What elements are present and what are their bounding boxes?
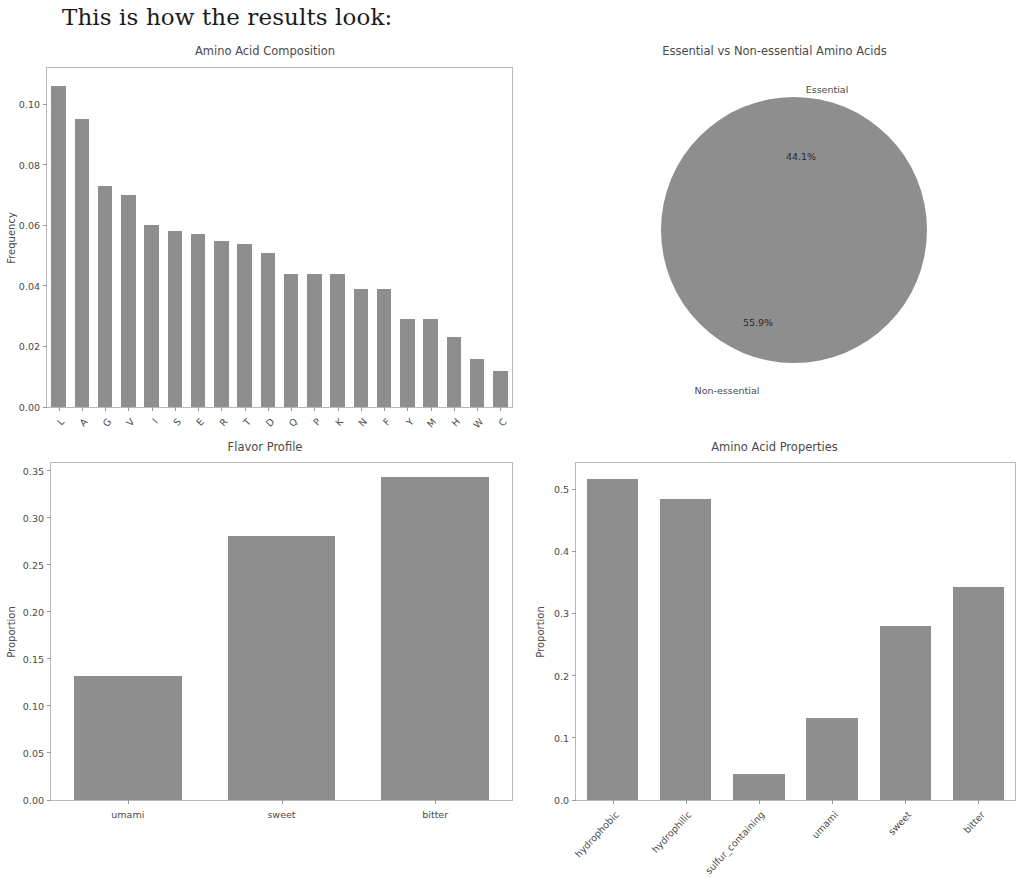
x-tick-label: G — [100, 416, 113, 429]
page-heading: This is how the results look: — [62, 4, 392, 30]
y-tick-label: 0.10 — [23, 700, 51, 711]
y-axis-label-amino-acid-properties: Proportion — [535, 606, 546, 658]
bar-item — [205, 463, 359, 800]
bar — [330, 274, 344, 407]
x-tick-label: hydrophobic — [572, 809, 620, 860]
y-tick-label: 0.5 — [554, 484, 576, 495]
bar-item — [280, 68, 303, 407]
x-tick-label: T — [241, 416, 253, 428]
y-tick-label: 0.04 — [19, 280, 47, 291]
pie-slice-label-essential: Essential — [806, 84, 849, 95]
bar-item — [303, 68, 326, 407]
bar-item — [489, 68, 512, 407]
x-tick-label: S — [171, 416, 183, 428]
bar-item — [869, 463, 942, 800]
y-tick-label: 0.3 — [554, 608, 576, 619]
chart-panel-essential-vs-non-essential: Essential vs Non-essential Amino Acids 4… — [530, 44, 1019, 444]
x-tick-label: F — [380, 416, 392, 428]
x-tick-label: bitter — [422, 809, 448, 820]
plot-area-flavor-profile: Proportion umamisweetbitter 0.000.050.10… — [50, 462, 513, 801]
pie-slice-percent-non-essential: 55.9% — [743, 317, 773, 328]
chart-panel-flavor-profile: Flavor Profile Proportion umamisweetbitt… — [0, 440, 530, 878]
bar — [447, 337, 461, 407]
bar — [51, 86, 65, 407]
bar-item — [210, 68, 233, 407]
y-tick-label: 0.2 — [554, 670, 576, 681]
x-tick-label: M — [425, 416, 439, 430]
y-tick-label: 0.02 — [19, 341, 47, 352]
y-tick-label: 0.08 — [19, 159, 47, 170]
x-tick-label: H — [449, 416, 462, 429]
bar — [228, 536, 336, 800]
x-tick-label: P — [310, 416, 322, 428]
y-tick-label: 0.20 — [23, 606, 51, 617]
bar — [261, 253, 275, 407]
bar-series-flavor-profile — [51, 463, 512, 800]
bar-item — [576, 463, 649, 800]
chart-title-flavor-profile: Flavor Profile — [0, 440, 530, 454]
x-tick-label: R — [217, 416, 230, 428]
bar-item — [70, 68, 93, 407]
pie-slice-percent-essential: 44.1% — [786, 151, 816, 162]
x-tick-label: sweet — [267, 809, 295, 820]
bar-series-amino-acid-composition — [47, 68, 512, 407]
x-tick-label: Q — [286, 416, 299, 429]
bar — [880, 626, 931, 800]
bar — [493, 371, 507, 407]
chart-title-amino-acid-composition: Amino Acid Composition — [0, 44, 530, 58]
bar-item — [442, 68, 465, 407]
pie-chart — [661, 97, 927, 363]
bar — [587, 479, 638, 800]
bar — [354, 289, 368, 407]
bar — [381, 477, 489, 800]
bar-item — [94, 68, 117, 407]
bar — [733, 774, 784, 800]
bar-item — [373, 68, 396, 407]
bar-item — [140, 68, 163, 407]
y-tick-label: 0.25 — [23, 559, 51, 570]
x-tick-label: D — [263, 416, 276, 429]
x-tick-label: I — [150, 416, 160, 426]
bar — [144, 225, 158, 407]
bar-item — [649, 463, 722, 800]
y-tick-label: 0.4 — [554, 546, 576, 557]
y-tick-label: 0.10 — [19, 99, 47, 110]
plot-area-amino-acid-properties: Proportion hydrophobichydrophilicsulfur_… — [575, 462, 1016, 801]
chart-panel-amino-acid-properties: Amino Acid Properties Proportion hydroph… — [530, 440, 1019, 878]
chart-title-amino-acid-properties: Amino Acid Properties — [530, 440, 1019, 454]
y-tick-label: 0.06 — [19, 220, 47, 231]
x-tick-label: C — [496, 416, 509, 428]
plot-area-amino-acid-composition: Frequency LAGVISERTDQPKNFYMHWC 0.000.020… — [46, 67, 513, 408]
bar-item — [163, 68, 186, 407]
bar — [75, 119, 89, 407]
bar — [470, 359, 484, 407]
y-tick-label: 0.00 — [23, 795, 51, 806]
x-tick-label: hydrophilic — [650, 809, 694, 855]
y-tick-label: 0.35 — [23, 465, 51, 476]
bar — [400, 319, 414, 407]
x-tick-label: sweet — [886, 809, 913, 837]
bar — [98, 186, 112, 407]
bar-item — [349, 68, 372, 407]
bar-item — [396, 68, 419, 407]
bar — [191, 234, 205, 407]
bar — [168, 231, 182, 407]
bar — [74, 676, 182, 800]
y-tick-label: 0.1 — [554, 732, 576, 743]
chart-panel-amino-acid-composition: Amino Acid Composition Frequency LAGVISE… — [0, 44, 530, 444]
bar-item — [358, 463, 512, 800]
bar-item — [47, 68, 70, 407]
bar-item — [466, 68, 489, 407]
bar — [237, 244, 251, 407]
y-tick-label: 0.00 — [19, 402, 47, 413]
bar — [284, 274, 298, 407]
bar — [953, 587, 1004, 800]
x-tick-label: bitter — [961, 809, 987, 835]
bar-item — [187, 68, 210, 407]
bar-item — [51, 463, 205, 800]
y-tick-label: 0.15 — [23, 653, 51, 664]
pie-slice-label-non-essential: Non-essential — [695, 385, 760, 396]
x-tick-label: K — [333, 416, 345, 428]
y-tick-label: 0.0 — [554, 795, 576, 806]
bar — [806, 718, 857, 800]
